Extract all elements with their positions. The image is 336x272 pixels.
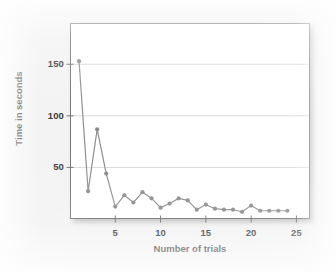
figure-container: 50100150 510152025 Time in seconds Numbe… [0,0,336,272]
x-axis-ticks [115,216,296,223]
data-point-markers [77,59,290,214]
gridlines [71,64,309,167]
y-axis-tick-label: 150 [28,58,64,69]
data-line-series-1 [79,61,287,212]
y-axis-tick-label: 100 [28,110,64,121]
y-axis-title: Time in seconds [13,49,24,169]
x-axis-tick-label: 20 [237,227,265,238]
x-axis-tick-label: 15 [192,227,220,238]
x-axis-title: Number of trials [70,243,310,254]
y-axis-tick-label: 50 [28,161,64,172]
y-axis-ticks [67,64,74,167]
x-axis-tick-label: 5 [101,227,129,238]
x-axis-tick-label: 10 [147,227,175,238]
x-axis-tick-label: 25 [282,227,310,238]
